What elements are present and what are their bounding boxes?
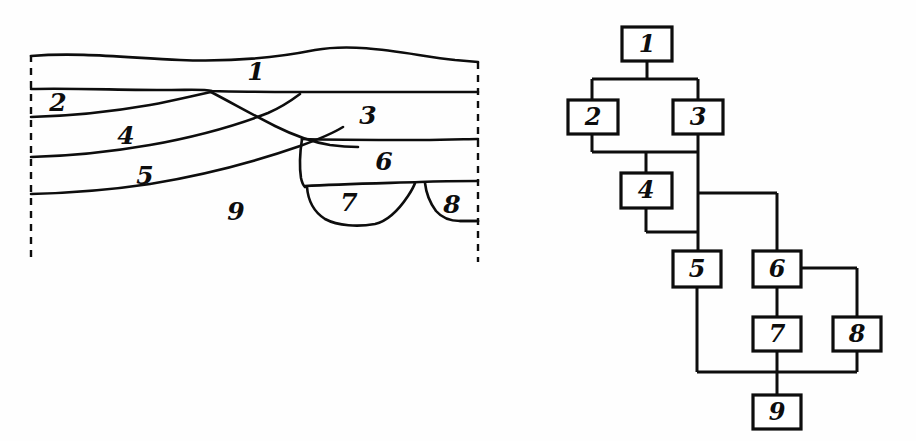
- matrix-node-2-label: 2: [584, 102, 602, 131]
- matrix-node-4[interactable]: 4: [621, 173, 672, 208]
- matrix-node-8-label: 8: [848, 319, 866, 348]
- figure-root: 1 2 3 4 5 6 7 8 9: [0, 0, 916, 441]
- matrix-node-6-label: 6: [769, 254, 786, 283]
- matrix-node-1[interactable]: 1: [622, 27, 672, 61]
- matrix-node-9[interactable]: 9: [753, 395, 801, 429]
- matrix-node-5[interactable]: 5: [673, 251, 721, 287]
- matrix-node-3[interactable]: 3: [673, 100, 723, 134]
- matrix-node-3-label: 3: [690, 102, 707, 131]
- matrix-node-6[interactable]: 6: [753, 251, 801, 287]
- matrix-node-4-label: 4: [638, 175, 655, 204]
- matrix-nodes: 1 2 3 4 5 6 7: [568, 27, 881, 429]
- matrix-node-8[interactable]: 8: [833, 317, 881, 351]
- matrix-node-7-label: 7: [769, 319, 786, 348]
- matrix-node-2[interactable]: 2: [568, 100, 618, 134]
- matrix-node-7[interactable]: 7: [753, 317, 801, 351]
- matrix-node-1-label: 1: [639, 29, 656, 58]
- matrix-node-9-label: 9: [769, 397, 786, 426]
- matrix-node-5-label: 5: [689, 254, 706, 283]
- matrix-panel: 1 2 3 4 5 6 7: [0, 0, 916, 441]
